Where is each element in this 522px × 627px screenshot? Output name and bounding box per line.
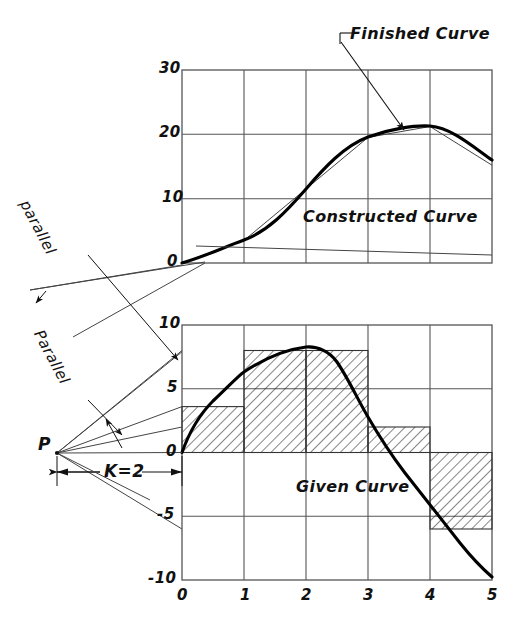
given-curve-label: Given Curve xyxy=(296,477,410,496)
xtick-2: 2 xyxy=(301,586,312,604)
parallel-callout-upper-leader xyxy=(88,255,178,360)
upper-ytick-10: 10 xyxy=(162,188,184,206)
lower-ytick-5: 5 xyxy=(167,378,178,396)
pole-point xyxy=(55,451,59,455)
xtick-1: 1 xyxy=(240,586,251,604)
pole-distance-label: K=2 xyxy=(104,461,144,481)
constructed-chord-polygon xyxy=(182,127,492,264)
lower-ytick-0: 0 xyxy=(166,442,177,460)
xtick-0: 0 xyxy=(177,586,188,604)
pole-label: P xyxy=(38,434,51,454)
upper-ytick-30: 30 xyxy=(159,59,181,77)
mean-ordinate-bars xyxy=(182,351,492,530)
parallel-callout-lower-leader xyxy=(36,291,46,303)
upper-chart-grid xyxy=(182,70,492,263)
lower-ytick-10: 10 xyxy=(159,314,181,332)
xtick-5: 5 xyxy=(487,586,498,604)
xtick-3: 3 xyxy=(363,586,374,604)
finished-curve-label: Finished Curve xyxy=(350,24,490,43)
xtick-4: 4 xyxy=(425,586,436,604)
figure-root: 30 20 10 0 10 5 0 -5 -10 0 1 2 3 4 5 Fin… xyxy=(0,0,522,627)
finished-curve-leader xyxy=(340,33,404,130)
lower-ytick-neg10: -10 xyxy=(148,569,176,587)
upper-ytick-20: 20 xyxy=(159,123,181,141)
upper-ytick-0: 0 xyxy=(167,252,178,270)
lower-ytick-neg5: -5 xyxy=(157,505,174,523)
technical-drawing-canvas xyxy=(0,0,522,627)
constructed-curve-label: Constructed Curve xyxy=(303,207,478,226)
finished-curve xyxy=(182,126,492,263)
